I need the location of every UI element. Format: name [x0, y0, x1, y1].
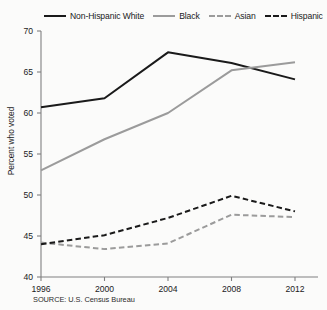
legend-entry-asian: Asian: [209, 12, 256, 21]
plot-svg: [0, 24, 327, 286]
x-tick-label: 2008: [212, 285, 252, 294]
legend-swatch-non-hispanic-white: [44, 15, 66, 17]
axis-layer: [37, 31, 318, 281]
legend-swatch-black: [153, 15, 175, 17]
y-tick-label: 40: [11, 273, 33, 282]
chart-legend: Non-Hispanic White Black Asian Hispanic: [44, 8, 324, 24]
y-tick-label: 65: [11, 68, 33, 77]
x-tick-label: 2012: [275, 285, 315, 294]
y-tick-label: 60: [11, 109, 33, 118]
voter-turnout-chart: Non-Hispanic White Black Asian Hispanic …: [0, 0, 327, 310]
x-tick-label: 2000: [85, 285, 125, 294]
legend-entry-black: Black: [153, 12, 200, 21]
legend-swatch-hispanic: [265, 15, 287, 17]
series-line-hispanic: [41, 196, 295, 244]
series-layer: [41, 52, 295, 249]
y-tick-label: 70: [11, 27, 33, 36]
x-tick-label: 1996: [21, 285, 61, 294]
legend-label-non-hispanic-white: Non-Hispanic White: [70, 12, 144, 21]
source-note: SOURCE: U.S. Census Bureau: [33, 295, 135, 304]
y-tick-label: 50: [11, 191, 33, 200]
series-line-asian: [41, 215, 295, 249]
plot-area: Percent who voted 40455055606570 1996200…: [0, 24, 327, 286]
y-tick-label: 45: [11, 232, 33, 241]
legend-label-black: Black: [179, 12, 200, 21]
legend-entry-non-hispanic-white: Non-Hispanic White: [44, 12, 144, 21]
legend-swatch-asian: [209, 15, 231, 17]
legend-label-hispanic: Hispanic: [291, 12, 323, 21]
legend-entry-hispanic: Hispanic: [265, 12, 323, 21]
y-tick-label: 55: [11, 150, 33, 159]
series-line-black: [41, 62, 295, 170]
x-tick-label: 2004: [148, 285, 188, 294]
legend-label-asian: Asian: [235, 12, 256, 21]
series-line-non-hispanic-white: [41, 52, 295, 107]
